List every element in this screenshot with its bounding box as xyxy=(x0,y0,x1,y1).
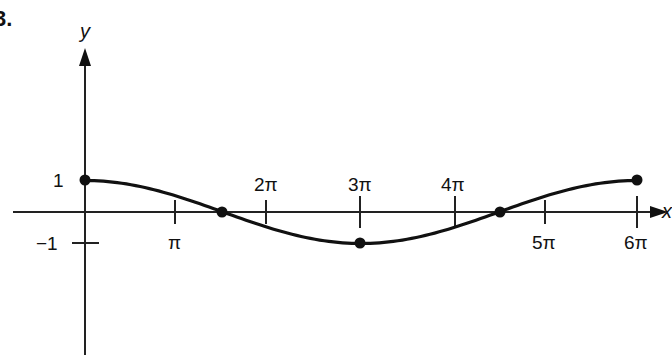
point-6pi-1 xyxy=(632,175,643,186)
y-tick-label-neg-one: −1 xyxy=(36,233,58,255)
x-tick-label-pi: π xyxy=(168,232,181,254)
x-tick-label-4pi: 4π xyxy=(441,174,465,196)
x-tick-label-3pi: 3π xyxy=(348,174,372,196)
point-3pi-min xyxy=(355,238,366,249)
x-axis-label: x xyxy=(662,200,672,223)
point-0-1 xyxy=(80,175,91,186)
y-axis-label: y xyxy=(80,20,90,43)
y-tick-label-one: 1 xyxy=(53,170,64,192)
point-zero-crossing-2 xyxy=(495,207,506,218)
y-axis-arrow-icon xyxy=(79,48,91,66)
point-zero-crossing-1 xyxy=(217,207,228,218)
x-tick-label-6pi: 6π xyxy=(624,232,648,254)
x-tick-label-5pi: 5π xyxy=(532,232,556,254)
x-tick-label-2pi: 2π xyxy=(254,174,278,196)
